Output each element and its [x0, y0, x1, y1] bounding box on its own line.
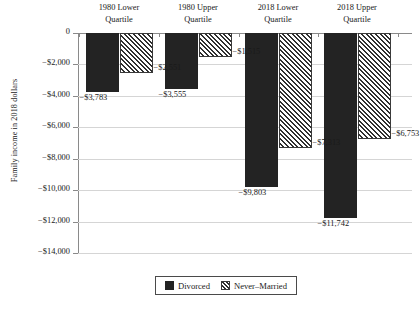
hatched-square-icon [221, 281, 230, 290]
bar-divorced [86, 33, 119, 92]
gridline [78, 222, 412, 223]
category-label-line: 2018 Upper [307, 2, 407, 14]
y-tick-label: −$8,000 [0, 153, 70, 162]
bar-value-label: −$11,742 [318, 219, 350, 228]
gridline [78, 253, 412, 254]
bar-never-married [120, 33, 153, 73]
y-tick-label: −$2,000 [0, 58, 70, 67]
plot-area: −$3,783−$3,555−$9,803−$11,742−$2,551−$1,… [78, 33, 412, 253]
category-tick [159, 33, 160, 37]
legend-label-divorced: Divorced [178, 281, 210, 291]
bar-value-label: −$9,803 [239, 188, 267, 197]
bar-value-label: −$2,551 [154, 63, 182, 72]
bar-value-label: −$6,753 [392, 129, 420, 138]
chart-legend: Divorced Never–Married [155, 276, 297, 295]
y-tick-label: −$12,000 [0, 216, 70, 225]
bar-never-married [358, 33, 391, 139]
bar-divorced [324, 33, 357, 218]
category-tick [239, 33, 240, 37]
category-label-line: Quartile [307, 14, 407, 26]
category-tick [318, 33, 319, 37]
solid-square-icon [165, 281, 174, 290]
bar-divorced [165, 33, 198, 89]
bar-never-married [279, 33, 312, 148]
bar-value-label: −$7,313 [313, 138, 341, 147]
bar-value-label: −$1,515 [233, 47, 261, 56]
legend-item-never-married: Never–Married [221, 281, 287, 291]
bar-value-label: −$3,783 [80, 93, 108, 102]
y-tick-label: 0 [0, 27, 70, 36]
category-tick [79, 33, 80, 37]
bar-value-label: −$3,555 [159, 90, 187, 99]
y-axis-title: Family income in 2018 dollars [10, 21, 19, 241]
y-tick-label: −$14,000 [0, 247, 70, 256]
bar-divorced [245, 33, 278, 187]
bar-chart: Family income in 2018 dollars 0−$2,000−$… [0, 0, 420, 309]
y-tick-label: −$10,000 [0, 184, 70, 193]
y-tick-label: −$4,000 [0, 90, 70, 99]
category-tick [398, 33, 399, 37]
y-tick-label: −$6,000 [0, 121, 70, 130]
legend-label-never-married: Never–Married [234, 281, 287, 291]
bar-never-married [199, 33, 232, 57]
category-label: 2018 UpperQuartile [307, 2, 407, 25]
legend-item-divorced: Divorced [165, 281, 210, 291]
